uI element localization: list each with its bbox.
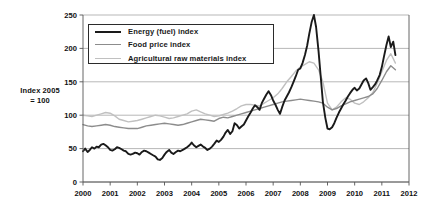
svg-text:2005: 2005 xyxy=(210,189,228,198)
legend-item-energy: Energy (fuel) index xyxy=(89,25,273,38)
legend-swatch-agricultural xyxy=(95,58,121,59)
svg-text:2000: 2000 xyxy=(75,189,92,198)
svg-text:2003: 2003 xyxy=(156,189,173,198)
svg-text:2008: 2008 xyxy=(292,189,309,198)
svg-text:250: 250 xyxy=(64,11,77,20)
svg-text:200: 200 xyxy=(64,44,77,53)
svg-text:2006: 2006 xyxy=(238,189,255,198)
x-tick-labels: 2000200120022003200420052006200720082009… xyxy=(75,189,418,198)
svg-text:0: 0 xyxy=(73,178,77,187)
legend-label-energy: Energy (fuel) index xyxy=(128,27,198,36)
svg-text:2004: 2004 xyxy=(183,189,201,198)
svg-text:150: 150 xyxy=(64,78,77,87)
chart-legend: Energy (fuel) index Food price index Agr… xyxy=(88,24,274,64)
svg-text:2010: 2010 xyxy=(346,189,363,198)
y-tick-labels: 050100150200250 xyxy=(64,11,77,187)
legend-label-food: Food price index xyxy=(128,40,190,49)
svg-text:50: 50 xyxy=(69,144,77,153)
svg-text:2001: 2001 xyxy=(102,189,120,198)
price-index-line-chart: Index 2005 = 100 050100150200250 2000200… xyxy=(0,0,437,210)
svg-text:2012: 2012 xyxy=(401,189,418,198)
legend-item-agricultural: Agricultural raw materials index xyxy=(89,52,273,65)
y-tick-marks xyxy=(80,15,84,182)
svg-text:2009: 2009 xyxy=(319,189,336,198)
legend-swatch-energy xyxy=(95,31,121,33)
svg-text:100: 100 xyxy=(64,111,77,120)
legend-label-agricultural: Agricultural raw materials index xyxy=(128,54,246,63)
svg-text:2007: 2007 xyxy=(265,189,282,198)
x-tick-marks xyxy=(83,182,409,186)
svg-text:2011: 2011 xyxy=(374,189,391,198)
legend-swatch-food xyxy=(95,44,121,45)
legend-item-food: Food price index xyxy=(89,38,273,51)
svg-text:2002: 2002 xyxy=(129,189,146,198)
